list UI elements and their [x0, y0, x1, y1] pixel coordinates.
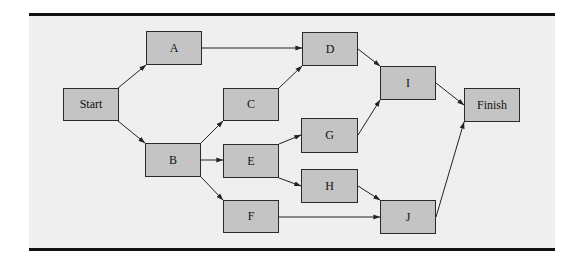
node-e: E: [223, 144, 279, 178]
edge-g-to-i: [358, 100, 380, 135]
node-b: B: [145, 143, 201, 177]
node-label: A: [170, 41, 179, 56]
edge-b-to-f: [201, 177, 223, 200]
node-label: D: [326, 42, 335, 57]
edge-b-to-c: [201, 121, 223, 143]
node-f: F: [223, 200, 279, 233]
edge-layer: [0, 0, 583, 262]
node-label: H: [325, 179, 334, 194]
edge-c-to-d: [279, 66, 302, 88]
edge-start-to-a: [118, 65, 146, 88]
node-label: I: [406, 76, 410, 91]
node-c: C: [223, 88, 279, 121]
node-d: D: [302, 32, 358, 66]
edge-d-to-i: [358, 49, 380, 66]
node-label: C: [247, 97, 255, 112]
edge-e-to-h: [279, 178, 301, 186]
node-h: H: [301, 169, 358, 203]
node-label: G: [325, 128, 334, 143]
node-label: Start: [80, 97, 103, 112]
edge-i-to-finish: [436, 83, 464, 105]
node-i: I: [380, 66, 436, 100]
node-start: Start: [63, 88, 119, 121]
node-label: Finish: [477, 98, 507, 113]
node-label: F: [248, 209, 255, 224]
edge-j-to-finish: [436, 122, 464, 217]
node-label: B: [169, 153, 177, 168]
node-g: G: [301, 118, 358, 153]
node-j: J: [380, 200, 436, 234]
edge-h-to-j: [358, 186, 380, 200]
edge-start-to-b: [118, 121, 145, 143]
node-label: J: [406, 210, 411, 225]
edge-e-to-g: [279, 135, 301, 144]
node-finish: Finish: [464, 88, 520, 122]
node-label: E: [247, 154, 254, 169]
node-a: A: [146, 31, 202, 65]
